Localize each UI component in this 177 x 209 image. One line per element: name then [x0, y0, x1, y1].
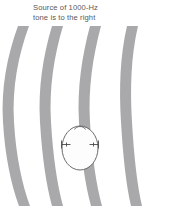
head-outline [62, 126, 98, 170]
head-group [62, 126, 99, 170]
wavefront-scene [0, 26, 177, 209]
figure-caption: Source of 1000-Hz tone is to the right [33, 3, 153, 22]
sound-localization-figure: Source of 1000-Hz tone is to the right [0, 0, 177, 209]
